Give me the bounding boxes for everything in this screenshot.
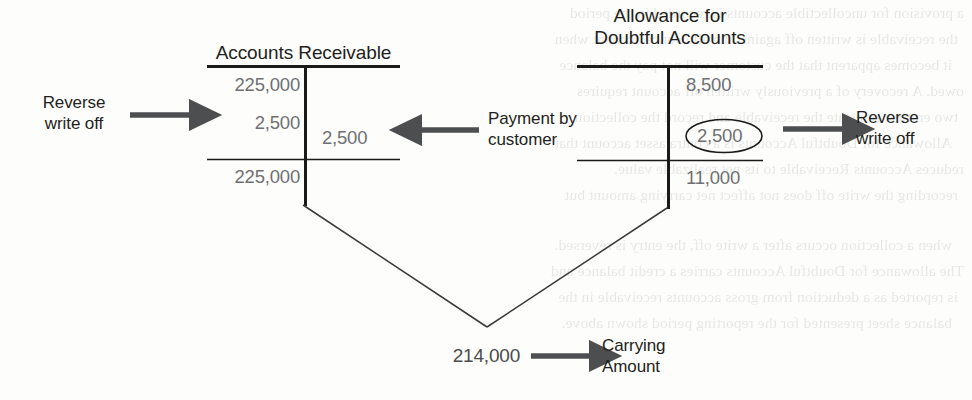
ada-credit-entry-1: 8,500 — [686, 74, 781, 96]
label-reverse-write-off-right-line-1: Reverse — [856, 107, 966, 128]
ada-credit-entry-2-highlighted: 2,500 — [697, 125, 792, 147]
t-account-diagram: Accounts Receivable 225,000 2,500 2,500 … — [0, 0, 972, 400]
ar-credit-entry-1: 2,500 — [322, 127, 412, 149]
ada-balance: 11,000 — [686, 167, 781, 189]
t-account-title-allowance-line-1: Allowance for — [575, 5, 765, 27]
connector-from-receivable — [303, 205, 487, 327]
diagram-vector-layer — [0, 0, 972, 400]
label-carrying-amount-line-1: Carrying — [602, 335, 722, 356]
label-payment-by-customer-line-2: customer — [488, 129, 618, 150]
label-reverse-write-off-left-line-1: Reverse — [22, 92, 126, 113]
connector-from-allowance — [487, 208, 667, 327]
carrying-amount-value: 214,000 — [410, 345, 520, 367]
ar-debit-entry-2: 2,500 — [195, 112, 300, 134]
t-account-title-allowance-line-2: Doubtful Accounts — [570, 27, 770, 49]
label-reverse-write-off-left-line-2: write off — [22, 113, 126, 134]
ar-debit-entry-1: 225,000 — [195, 74, 300, 96]
label-reverse-write-off-right-line-2: write off — [856, 128, 966, 149]
t-account-title-accounts-receivable: Accounts Receivable — [207, 42, 400, 64]
label-payment-by-customer-line-1: Payment by — [488, 108, 618, 129]
label-carrying-amount-line-2: Amount — [602, 356, 722, 377]
ar-balance: 225,000 — [195, 166, 300, 188]
carrying-amount-connectors — [303, 205, 667, 327]
